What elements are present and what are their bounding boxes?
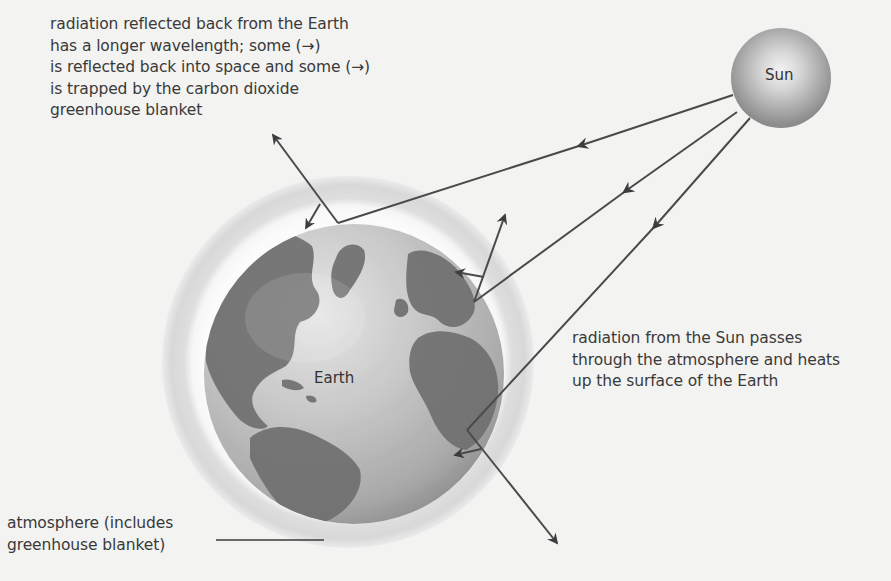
greenhouse-diagram: Sun Earth radiation reflected back from … <box>0 0 891 581</box>
caption-line: up the surface of the Earth <box>572 371 840 393</box>
caption-line: greenhouse blanket) <box>7 535 173 557</box>
incoming-ray-2 <box>474 112 737 302</box>
sun-label: Sun <box>765 66 794 84</box>
caption-line: radiation reflected back from the Earth <box>50 14 370 36</box>
incoming-radiation-caption: radiation from the Sun passes through th… <box>572 328 840 393</box>
caption-line: has a longer wavelength; some (→) <box>50 36 370 58</box>
caption-line: greenhouse blanket <box>50 100 370 122</box>
earth-label: Earth <box>314 369 354 387</box>
caption-line: atmosphere (includes <box>7 513 173 535</box>
caption-line: through the atmosphere and heats <box>572 350 840 372</box>
reflected-radiation-caption: radiation reflected back from the Earth … <box>50 14 370 122</box>
caption-line: radiation from the Sun passes <box>572 328 840 350</box>
atmosphere-caption: atmosphere (includes greenhouse blanket) <box>7 513 173 556</box>
caption-line: is trapped by the carbon dioxide <box>50 79 370 101</box>
caption-line: is reflected back into space and some (→… <box>50 57 370 79</box>
